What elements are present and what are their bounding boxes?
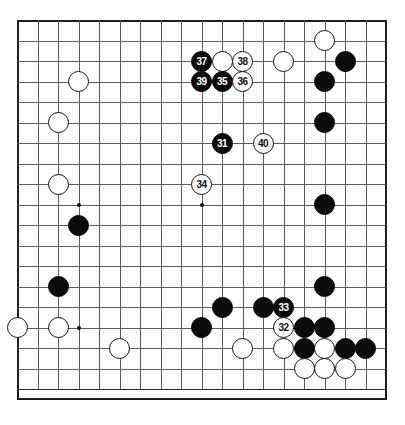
stone-black-12[interactable] [314, 112, 335, 133]
stone-white-34[interactable] [314, 338, 335, 359]
stone-white-25[interactable] [48, 317, 69, 338]
go-diagram-container: 37383935363140343332 [0, 0, 405, 425]
stone-move-32[interactable]: 32 [273, 317, 294, 338]
stone-move-33[interactable]: 33 [273, 297, 294, 318]
stone-black-26[interactable] [191, 317, 212, 338]
stone-white-15[interactable] [48, 174, 69, 195]
grid-line-horizontal-18 [17, 389, 386, 390]
stone-black-33[interactable] [294, 338, 315, 359]
go-board[interactable]: 37383935363140343332 [17, 20, 387, 400]
stone-white-31[interactable] [232, 338, 253, 359]
stone-move-37[interactable]: 37 [191, 51, 212, 72]
stone-white-39[interactable] [335, 358, 356, 379]
stone-black-29[interactable] [314, 317, 335, 338]
stone-move-39[interactable]: 39 [191, 71, 212, 92]
stone-white-11[interactable] [48, 112, 69, 133]
stone-white-32[interactable] [273, 338, 294, 359]
stone-move-38[interactable]: 38 [232, 51, 253, 72]
stone-white-38[interactable] [314, 358, 335, 379]
stone-black-5[interactable] [335, 51, 356, 72]
move-number-label: 39 [192, 72, 211, 91]
stone-white-37[interactable] [294, 358, 315, 379]
stone-black-10[interactable] [314, 71, 335, 92]
stone-black-17[interactable] [314, 194, 335, 215]
stone-move-40[interactable]: 40 [253, 133, 274, 154]
grid-line-vertical-16 [345, 20, 346, 389]
grid-line-horizontal-14 [17, 307, 386, 308]
stone-black-36[interactable] [355, 338, 376, 359]
move-number-label: 37 [192, 52, 211, 71]
grid-line-vertical-18 [386, 20, 387, 389]
move-number-label: 40 [254, 134, 273, 153]
stone-white-6[interactable] [68, 71, 89, 92]
grid-line-horizontal-12 [17, 266, 386, 267]
stone-black-35[interactable] [335, 338, 356, 359]
grid-line-vertical-17 [366, 20, 367, 389]
stone-white-30[interactable] [109, 338, 130, 359]
star-point-4 [200, 203, 204, 207]
move-number-label: 34 [192, 175, 211, 194]
stone-move-34[interactable]: 34 [191, 174, 212, 195]
stone-move-31[interactable]: 31 [212, 133, 233, 154]
stone-move-35[interactable]: 35 [212, 71, 233, 92]
stone-white-2[interactable] [212, 51, 233, 72]
stone-black-20[interactable] [314, 276, 335, 297]
star-point-3 [77, 203, 81, 207]
move-number-label: 35 [213, 72, 232, 91]
stone-move-36[interactable]: 36 [232, 71, 253, 92]
stone-black-18[interactable] [68, 215, 89, 236]
stone-white-0[interactable] [314, 30, 335, 51]
grid-line-vertical-12 [263, 20, 264, 389]
stone-black-22[interactable] [253, 297, 274, 318]
move-number-label: 33 [274, 298, 293, 317]
stone-black-28[interactable] [294, 317, 315, 338]
move-number-label: 38 [233, 52, 252, 71]
move-number-label: 32 [274, 318, 293, 337]
stone-black-19[interactable] [48, 276, 69, 297]
stone-black-21[interactable] [212, 297, 233, 318]
grid-line-horizontal-11 [17, 246, 386, 247]
move-number-label: 36 [233, 72, 252, 91]
stone-white-24[interactable] [7, 317, 28, 338]
star-point-6 [77, 326, 81, 330]
stone-white-4[interactable] [273, 51, 294, 72]
move-number-label: 31 [213, 134, 232, 153]
